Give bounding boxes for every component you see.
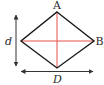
vertex-label-a: A: [52, 0, 62, 12]
short-diagonal-label: d: [5, 35, 12, 48]
long-diagonal-label: D: [52, 73, 62, 85]
rhombus-diagram: A B d D: [0, 0, 104, 85]
vertex-label-b: B: [96, 35, 104, 48]
diagram-svg: A B d D: [0, 0, 104, 85]
